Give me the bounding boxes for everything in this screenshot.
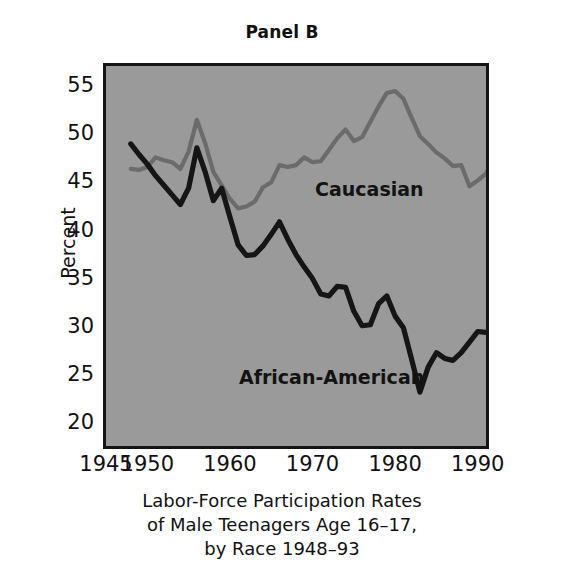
caption-line-3: by Race 1948–93 — [0, 537, 564, 561]
series-annotation-african-american: African-American — [239, 366, 424, 388]
figure-caption: Labor-Force Participation Rates of Male … — [0, 489, 564, 561]
caption-line-1: Labor-Force Participation Rates — [0, 489, 564, 513]
y-tick-label: 20 — [48, 411, 94, 432]
series-canvas — [106, 66, 486, 446]
chart-figure: Panel B Percent 2025303540455055 Caucasi… — [0, 0, 564, 573]
y-tick-label: 45 — [48, 171, 94, 192]
x-tick-label: 1950 — [121, 452, 174, 476]
x-tick-label: 1970 — [286, 452, 339, 476]
y-axis-ticks: Percent 2025303540455055 — [42, 0, 94, 573]
x-tick-label: 1990 — [451, 452, 504, 476]
caption-line-2: of Male Teenagers Age 16–17, — [0, 513, 564, 537]
line-series-caucasian — [131, 91, 486, 208]
y-tick-label: 40 — [48, 219, 94, 240]
y-tick-label: 55 — [48, 75, 94, 96]
x-axis-ticks: 194519501960197019801990 — [0, 452, 564, 486]
plot-area: Caucasian African-American — [103, 63, 489, 449]
x-tick-label: 1960 — [203, 452, 256, 476]
y-tick-label: 25 — [48, 363, 94, 384]
line-series-african-american — [131, 144, 486, 392]
x-tick-label: 1980 — [368, 452, 421, 476]
y-tick-label: 30 — [48, 315, 94, 336]
series-annotation-caucasian: Caucasian — [315, 178, 424, 200]
y-tick-label: 50 — [48, 123, 94, 144]
y-tick-label: 35 — [48, 267, 94, 288]
